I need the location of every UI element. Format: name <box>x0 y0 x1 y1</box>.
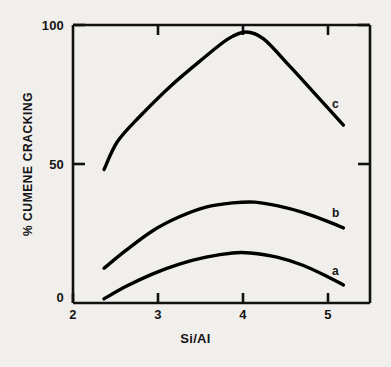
x-tick-label-3: 3 <box>143 307 173 322</box>
chart-figure: 100 50 0 2 3 4 5 % CUMENE CRACKING Si/Al… <box>0 0 391 367</box>
x-tick-label-2: 2 <box>58 307 88 322</box>
x-tick-label-4: 4 <box>228 307 258 322</box>
curve-label-a: a <box>332 264 339 278</box>
x-tick-label-5: 5 <box>313 307 343 322</box>
data-curve-a <box>104 252 343 298</box>
curve-label-b: b <box>332 206 339 220</box>
data-curve-b <box>104 202 343 268</box>
y-tick-label-100: 100 <box>8 18 64 33</box>
y-tick-label-50: 50 <box>8 157 64 172</box>
y-tick-label-0: 0 <box>8 290 64 305</box>
curve-label-c: c <box>332 97 339 111</box>
x-axis-title: Si/Al <box>0 331 391 346</box>
data-curve-c <box>104 32 343 170</box>
axes-frame <box>73 25 370 303</box>
y-axis-title: % CUMENE CRACKING <box>21 84 35 244</box>
